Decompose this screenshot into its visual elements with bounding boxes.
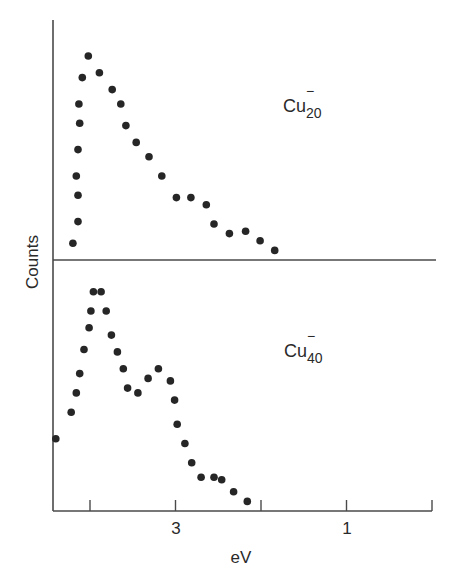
data-point: [74, 191, 82, 199]
series-label-cu40-base: Cu: [284, 341, 307, 361]
data-point: [69, 239, 77, 247]
data-point: [90, 288, 98, 296]
data-point: [188, 459, 196, 467]
data-point: [145, 153, 153, 161]
data-point: [244, 498, 252, 506]
data-point: [122, 122, 130, 130]
series-label-cu40: Cu−40: [284, 341, 323, 362]
data-point: [76, 370, 84, 378]
data-point: [173, 420, 181, 428]
data-point: [124, 384, 132, 392]
data-point: [102, 307, 110, 315]
data-point: [203, 201, 211, 209]
data-point: [75, 100, 83, 108]
data-point: [73, 389, 81, 397]
data-point: [74, 146, 82, 154]
data-point: [120, 365, 128, 373]
x-tick-label-3: 3: [171, 519, 180, 539]
series-label-cu40-charge: −40: [307, 341, 323, 362]
data-point: [167, 377, 175, 385]
series-label-cu20-sup: −: [306, 83, 314, 99]
data-point: [158, 172, 166, 180]
data-point: [173, 194, 181, 202]
data-point: [74, 218, 82, 226]
data-point: [181, 440, 189, 448]
data-point: [76, 119, 84, 127]
data-point: [155, 365, 163, 373]
data-point: [210, 220, 218, 228]
x-tick-label-1: 1: [342, 519, 351, 539]
series-label-cu40-sup: −: [307, 328, 315, 344]
x-axis-label: eV: [231, 548, 252, 568]
data-point: [96, 69, 104, 77]
data-point: [134, 389, 142, 397]
photoelectron-spectra-chart: [0, 0, 456, 582]
data-point: [87, 307, 95, 315]
data-point: [187, 194, 195, 202]
data-point: [108, 86, 116, 94]
y-axis-label: Counts: [23, 235, 43, 289]
series-cu20-points: [69, 52, 278, 254]
data-point: [114, 348, 122, 356]
data-point: [256, 237, 264, 245]
data-point: [67, 408, 75, 416]
data-point: [97, 288, 105, 296]
series-label-cu20: Cu−20: [283, 96, 322, 117]
x-axis-ticks: [90, 500, 432, 511]
data-point: [210, 474, 218, 482]
data-point: [73, 172, 81, 180]
data-point: [108, 331, 116, 339]
data-point: [79, 74, 87, 82]
series-label-cu20-sub: 20: [306, 105, 322, 121]
data-point: [218, 476, 226, 484]
data-point: [117, 100, 125, 108]
data-point: [230, 488, 238, 496]
series-label-cu20-charge: −20: [306, 96, 322, 117]
series-cu40-points: [52, 288, 251, 505]
series-label-cu40-sub: 40: [307, 350, 323, 366]
data-point: [271, 247, 279, 255]
data-point: [132, 139, 140, 147]
series-label-cu20-base: Cu: [283, 96, 306, 116]
data-point: [226, 230, 234, 238]
data-point: [85, 52, 93, 60]
data-point: [144, 375, 152, 383]
data-point: [242, 227, 250, 235]
data-point: [85, 324, 93, 332]
data-point: [171, 396, 179, 404]
data-point: [80, 346, 88, 354]
data-point: [52, 435, 60, 443]
data-point: [197, 474, 205, 482]
